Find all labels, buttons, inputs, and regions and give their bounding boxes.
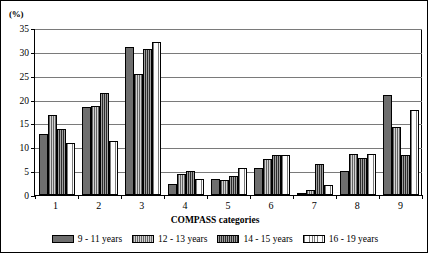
x-axis-category-label: 5 bbox=[206, 200, 249, 211]
x-axis-tick bbox=[293, 195, 294, 199]
legend-item: 12 - 13 years bbox=[132, 234, 207, 244]
legend-swatch bbox=[303, 235, 325, 243]
x-axis-category-label: 6 bbox=[250, 200, 293, 211]
bar bbox=[297, 193, 306, 195]
bar-group bbox=[121, 29, 164, 195]
bar-group bbox=[207, 29, 250, 195]
bar-group bbox=[336, 29, 379, 195]
bar bbox=[263, 159, 272, 195]
legend-label: 9 - 11 years bbox=[78, 234, 122, 244]
bar bbox=[349, 154, 358, 195]
bar-group bbox=[164, 29, 207, 195]
y-axis-tick-label: 10 bbox=[20, 143, 30, 153]
y-axis-tick-label: 25 bbox=[20, 72, 30, 82]
x-axis-category-label: 3 bbox=[120, 200, 163, 211]
bar bbox=[57, 129, 66, 195]
chart-figure: (%) 05101520253035 123456789 COMPASS cat… bbox=[0, 0, 428, 253]
x-axis-tick bbox=[336, 195, 337, 199]
bar bbox=[152, 42, 161, 195]
x-axis-tick bbox=[164, 195, 165, 199]
y-axis-tick-label: 35 bbox=[20, 24, 30, 34]
y-axis-tick-label: 20 bbox=[20, 96, 30, 106]
legend-swatch bbox=[132, 235, 154, 243]
bar bbox=[168, 184, 177, 195]
bar bbox=[186, 171, 195, 195]
bar bbox=[125, 47, 134, 195]
bar-groups bbox=[35, 29, 422, 195]
bar bbox=[91, 106, 100, 195]
legend-label: 16 - 19 years bbox=[329, 234, 378, 244]
bar-group bbox=[250, 29, 293, 195]
bar bbox=[324, 185, 333, 195]
x-axis-tick bbox=[250, 195, 251, 199]
x-axis-tick bbox=[78, 195, 79, 199]
x-axis-category-label: 7 bbox=[293, 200, 336, 211]
bar-group bbox=[35, 29, 78, 195]
y-axis-tick-label: 15 bbox=[20, 119, 30, 129]
legend-label: 14 - 15 years bbox=[243, 234, 292, 244]
x-axis-category-label: 8 bbox=[336, 200, 379, 211]
bar bbox=[401, 155, 410, 195]
bar-group bbox=[78, 29, 121, 195]
bar bbox=[82, 107, 91, 195]
bar bbox=[315, 164, 324, 195]
bar bbox=[48, 115, 57, 195]
legend-swatch bbox=[217, 235, 239, 243]
x-axis-tick bbox=[207, 195, 208, 199]
x-axis-tick bbox=[379, 195, 380, 199]
y-axis-tick-label: 5 bbox=[24, 167, 29, 177]
bar bbox=[211, 179, 220, 195]
x-axis-title: COMPASS categories bbox=[1, 215, 428, 225]
bar bbox=[281, 155, 290, 195]
y-axis-tick-label: 30 bbox=[20, 48, 30, 58]
bar bbox=[220, 180, 229, 195]
bar bbox=[306, 190, 315, 195]
bar bbox=[177, 174, 186, 195]
bar bbox=[238, 168, 247, 195]
bar-group bbox=[379, 29, 422, 195]
x-axis-category-label: 1 bbox=[34, 200, 77, 211]
bar bbox=[254, 168, 263, 195]
legend-swatch bbox=[52, 235, 74, 243]
bar bbox=[340, 171, 349, 195]
bar bbox=[66, 143, 75, 195]
x-axis-category-label: 4 bbox=[163, 200, 206, 211]
chart-legend: 9 - 11 years12 - 13 years14 - 15 years16… bbox=[1, 234, 428, 244]
bar bbox=[367, 154, 376, 195]
legend-item: 14 - 15 years bbox=[217, 234, 292, 244]
bar bbox=[195, 179, 204, 195]
plot-area: 05101520253035 bbox=[34, 29, 422, 196]
x-axis-category-label: 2 bbox=[77, 200, 120, 211]
x-axis-tick bbox=[35, 195, 36, 199]
bar-group bbox=[293, 29, 336, 195]
bar bbox=[410, 110, 419, 195]
bar bbox=[39, 134, 48, 195]
bar bbox=[383, 95, 392, 195]
x-axis-category-labels: 123456789 bbox=[34, 200, 422, 211]
y-axis-tick-label: 0 bbox=[24, 191, 29, 201]
y-axis-unit-label: (%) bbox=[9, 9, 23, 19]
bar bbox=[109, 141, 118, 195]
x-axis-tick bbox=[121, 195, 122, 199]
bar bbox=[272, 155, 281, 195]
legend-item: 9 - 11 years bbox=[52, 234, 122, 244]
bar bbox=[358, 158, 367, 195]
bar bbox=[229, 176, 238, 195]
bar bbox=[143, 49, 152, 195]
legend-label: 12 - 13 years bbox=[158, 234, 207, 244]
legend-item: 16 - 19 years bbox=[303, 234, 378, 244]
bar bbox=[392, 127, 401, 195]
x-axis-tick bbox=[422, 195, 423, 199]
bar bbox=[134, 74, 143, 195]
bar bbox=[100, 93, 109, 195]
x-axis-category-label: 9 bbox=[379, 200, 422, 211]
